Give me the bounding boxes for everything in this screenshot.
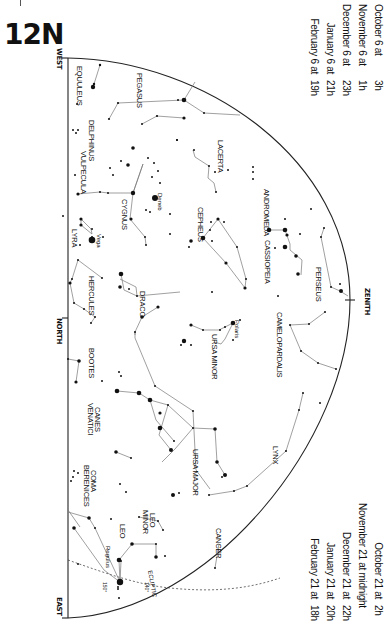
observation-times-bottom: October 21 at2h November 21 at midnight …	[306, 503, 386, 631]
label-cancer: CANCER	[214, 528, 223, 558]
label-ursa-minor: URSA MINOR	[210, 334, 219, 380]
direction-zenith: ZENITH	[363, 288, 371, 315]
time-row: October 6 at3h	[370, 4, 386, 96]
label-andromeda: ANDROMEDA	[262, 189, 271, 236]
time-date: December 21 at	[338, 503, 354, 599]
label-coma-berenices-2: BERENICES	[82, 465, 91, 507]
label-canes-venatici-2: VENATICI	[86, 403, 95, 435]
label-leo-minor-2: MINOR	[141, 510, 150, 534]
label-hercules: HERCULES	[87, 276, 96, 315]
label-deneb: Deneb	[157, 193, 163, 211]
time-hour: 19h	[306, 80, 322, 96]
label-equuleus: EQUULEUS	[75, 66, 84, 106]
time-date: December 6 at	[338, 4, 354, 74]
time-row: November 6 at1h	[354, 4, 370, 96]
time-row: January 21 at20h	[322, 503, 338, 631]
label-draco: DRACO	[138, 291, 147, 317]
time-date: January 6 at	[322, 4, 338, 74]
time-hour: 22h	[338, 605, 354, 625]
time-row: February 21 at18h	[306, 503, 322, 631]
time-date: October 6 at	[370, 4, 386, 74]
ecliptic-mark-140: 140°	[144, 582, 150, 592]
time-hour: 21h	[322, 80, 338, 96]
label-regulus: Regulus	[105, 546, 111, 568]
label-cepheus: CEPHEUS	[196, 207, 205, 242]
label-ursa-major: URSA MAJOR	[191, 449, 200, 496]
time-row: October 21 at2h	[370, 503, 386, 631]
time-hour: 2h	[370, 605, 386, 625]
label-vulpecula: VULPECULA	[79, 151, 88, 194]
time-hour: 18h	[306, 605, 322, 625]
label-cygnus: CYGNUS	[120, 199, 129, 230]
ecliptic-mark-150: 150°	[102, 582, 108, 592]
stars	[62, 64, 343, 599]
time-row: February 6 at19h	[306, 4, 322, 96]
time-row: December 21 at22h	[338, 503, 354, 631]
label-polaris: Polaris	[234, 320, 240, 338]
time-date: November 21 at midnight	[354, 503, 370, 625]
time-date: February 6 at	[306, 4, 322, 74]
observation-times-top: October 6 at3h November 6 at1h December …	[306, 4, 386, 96]
time-date: October 21 at	[370, 503, 386, 599]
label-pegasus: PEGASUS	[135, 73, 144, 108]
label-camelopardalis: CAMELOPARDALIS	[275, 312, 284, 377]
time-date: November 6 at	[354, 4, 370, 74]
direction-west: WEST	[55, 48, 63, 69]
label-cassiopeia: CASSIOPEIA	[263, 240, 272, 283]
time-row: December 6 at23h	[338, 4, 354, 96]
direction-north: NORTH	[55, 318, 63, 344]
label-vega: Vega	[96, 234, 102, 248]
label-bootes: BOOTES	[87, 348, 96, 378]
time-hour: 1h	[354, 80, 370, 91]
label-delphinus: DELPHINUS	[87, 120, 96, 161]
time-row: January 6 at21h	[322, 4, 338, 96]
label-lacerta: LACERTA	[216, 140, 225, 173]
time-hour: 3h	[370, 80, 386, 91]
label-leo: LEO	[118, 524, 127, 538]
time-row: November 21 at midnight	[354, 503, 370, 631]
time-hour: 20h	[322, 605, 338, 625]
time-date: February 21 at	[306, 503, 322, 599]
label-lyra: LYRA	[70, 229, 79, 247]
label-lynx: LYNX	[271, 446, 280, 464]
label-perseus: PERSEUS	[314, 267, 323, 301]
direction-east: EAST	[55, 597, 63, 616]
time-hour: 23h	[338, 80, 354, 96]
time-date: January 21 at	[322, 503, 338, 599]
